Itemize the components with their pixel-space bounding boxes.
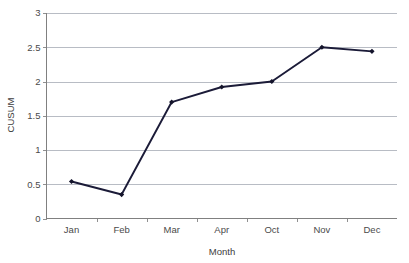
y-tick-label: 0	[35, 213, 40, 224]
cusum-line-chart: 00.511.522.53 JanFebMarAprOctNovDec CUSU…	[0, 0, 409, 263]
x-tick-label: Dec	[364, 224, 381, 235]
chart-background	[0, 0, 409, 263]
chart-canvas: 00.511.522.53 JanFebMarAprOctNovDec CUSU…	[0, 0, 409, 263]
x-tick-label: Apr	[214, 224, 229, 235]
y-tick-label: 1	[35, 144, 40, 155]
y-tick-label: 1.5	[27, 110, 40, 121]
y-tick-label: 2.5	[27, 42, 40, 53]
x-tick-label: Jan	[64, 224, 79, 235]
x-tick-label: Nov	[313, 224, 330, 235]
y-tick-label: 3	[35, 7, 40, 18]
x-tick-label: Oct	[264, 224, 279, 235]
x-axis-title: Month	[209, 246, 235, 257]
y-tick-label: 0.5	[27, 179, 40, 190]
x-tick-label: Mar	[163, 224, 179, 235]
y-axis-title: CUSUM	[5, 98, 16, 133]
x-tick-label: Feb	[113, 224, 129, 235]
y-tick-label: 2	[35, 76, 40, 87]
